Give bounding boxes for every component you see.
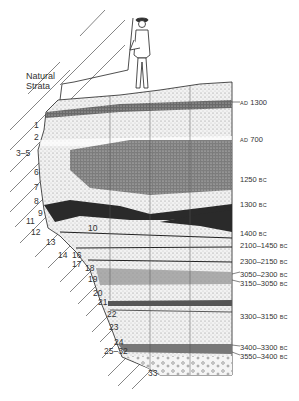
date-label: 2300–2150 BC bbox=[240, 258, 288, 266]
layer-label: 25–32 bbox=[104, 347, 128, 356]
date-era: BC bbox=[280, 354, 288, 360]
date-value: 3300–3150 bbox=[240, 312, 278, 321]
trench-outline-top bbox=[60, 18, 133, 100]
date-label: 3550–3400 BC bbox=[240, 353, 288, 361]
date-era: BC bbox=[280, 272, 288, 278]
layer-label: 3–5 bbox=[16, 149, 30, 158]
date-label: 2100–1450 BC bbox=[240, 242, 288, 250]
layer-label: 33 bbox=[148, 369, 157, 378]
layer-label: 10 bbox=[88, 224, 97, 233]
date-era: BC bbox=[259, 202, 267, 208]
date-label: 3050–2300 BC bbox=[240, 271, 288, 279]
date-value: 700 bbox=[250, 135, 263, 144]
layer-label: 8 bbox=[34, 197, 39, 206]
layer-label: 14 bbox=[58, 251, 67, 260]
person-figure bbox=[130, 18, 150, 88]
date-value: 3150–3050 bbox=[240, 279, 278, 288]
layer-label: 23 bbox=[109, 323, 118, 332]
section-body bbox=[38, 82, 232, 375]
date-era: AD bbox=[240, 137, 248, 143]
date-value: 2300–2150 bbox=[240, 257, 278, 266]
layer-label: 2 bbox=[34, 133, 39, 142]
date-era: BC bbox=[280, 281, 288, 287]
title-line-1: Natural bbox=[26, 71, 55, 81]
date-label: AD 1300 bbox=[240, 99, 267, 107]
date-value: 3050–2300 bbox=[240, 270, 278, 279]
layer-label: 21 bbox=[98, 298, 107, 307]
date-era: BC bbox=[280, 259, 288, 265]
date-label: 1300 BC bbox=[240, 201, 267, 209]
layer-label: 19 bbox=[88, 275, 97, 284]
date-era: BC bbox=[280, 345, 288, 351]
layer-label: 18 bbox=[85, 264, 94, 273]
title-line-2: Strata bbox=[26, 81, 55, 91]
date-value: 1250 bbox=[240, 175, 257, 184]
layer-label: 22 bbox=[107, 310, 116, 319]
date-value: 3550–3400 bbox=[240, 352, 278, 361]
natural-strata-label: Natural Strata bbox=[26, 71, 55, 91]
layer-label: 1 bbox=[34, 121, 39, 130]
layer-label: 17 bbox=[72, 260, 81, 269]
date-value: 2100–1450 bbox=[240, 241, 278, 250]
date-label: 1400 BC bbox=[240, 230, 267, 238]
date-label: 3150–3050 BC bbox=[240, 280, 288, 288]
date-label: 1250 BC bbox=[240, 176, 267, 184]
date-label: 3400–3300 BC bbox=[240, 344, 288, 352]
layer-label: 6 bbox=[34, 168, 39, 177]
date-value: 1300 bbox=[240, 200, 257, 209]
layer-label: 13 bbox=[46, 238, 55, 247]
date-label: AD 700 bbox=[240, 136, 263, 144]
date-era: BC bbox=[259, 231, 267, 237]
layer-label: 12 bbox=[31, 228, 40, 237]
layer-label: 7 bbox=[34, 183, 39, 192]
date-era: BC bbox=[280, 243, 288, 249]
layer-label: 11 bbox=[26, 217, 35, 226]
date-value: 1400 bbox=[240, 229, 257, 238]
date-era: AD bbox=[240, 100, 248, 106]
date-label: 3300–3150 BC bbox=[240, 313, 288, 321]
date-era: BC bbox=[280, 314, 288, 320]
date-value: 1300 bbox=[250, 98, 267, 107]
layer-label: 9 bbox=[38, 209, 43, 218]
date-value: 3400–3300 bbox=[240, 343, 278, 352]
date-era: BC bbox=[259, 177, 267, 183]
